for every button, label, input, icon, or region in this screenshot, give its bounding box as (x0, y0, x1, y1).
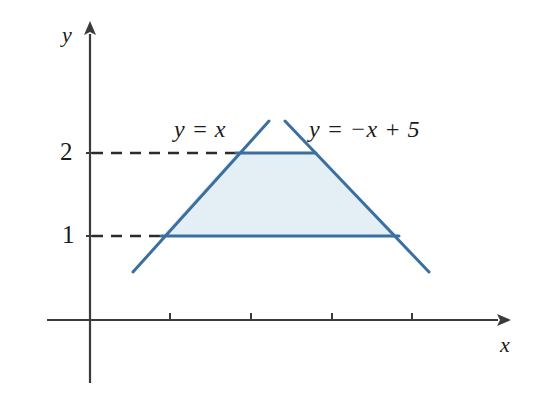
shaded-region (162, 153, 398, 236)
figure-container: y x 2 1 y = x y = −x + 5 (0, 0, 540, 405)
curve-label-y-equals-x: y = x (174, 117, 226, 141)
coordinate-plane-svg (0, 0, 540, 405)
y-tick-label-2: 2 (60, 139, 73, 164)
y-tick-label-1: 1 (62, 222, 75, 247)
x-axis-label: x (500, 334, 510, 356)
curve-label-y-equals-neg-x-plus-5: y = −x + 5 (309, 117, 420, 141)
y-axis-label: y (62, 24, 72, 46)
